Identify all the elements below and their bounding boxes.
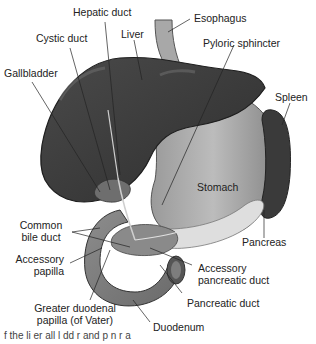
label-liver: Liver — [121, 28, 144, 40]
label-greater-duodenal-papilla-line1: Greater duodenal — [30, 302, 120, 314]
label-common-bile-duct-line1: Common — [18, 219, 64, 231]
label-greater-duodenal-papilla-line2: papilla (of Vater) — [30, 314, 120, 326]
label-accessory-papilla-line2: papilla — [12, 265, 64, 277]
label-accessory-pancreatic-duct-line1: Accessory — [198, 262, 269, 274]
label-hepatic-duct: Hepatic duct — [73, 6, 131, 18]
label-greater-duodenal-papilla: Greater duodenal papilla (of Vater) — [30, 302, 120, 326]
label-cystic-duct: Cystic duct — [36, 32, 87, 44]
pancreas-head-shape — [111, 225, 177, 256]
label-common-bile-duct: Common bile duct — [18, 219, 64, 243]
label-gallbladder: Gallbladder — [4, 67, 58, 79]
label-accessory-papilla: Accessory papilla — [12, 253, 64, 277]
label-accessory-pancreatic-duct-line2: pancreatic duct — [198, 274, 269, 286]
label-duodenum: Duodenum — [153, 321, 204, 333]
label-pyloric-sphincter: Pyloric sphincter — [203, 37, 280, 49]
label-common-bile-duct-line2: bile duct — [18, 231, 64, 243]
label-pancreatic-duct: Pancreatic duct — [187, 297, 259, 309]
label-accessory-pancreatic-duct: Accessory pancreatic duct — [198, 262, 269, 286]
caption-fragment: f the li er all l dd r and p n r a — [4, 330, 131, 341]
label-spleen: Spleen — [275, 91, 308, 103]
label-accessory-papilla-line1: Accessory — [12, 253, 64, 265]
label-pancreas: Pancreas — [242, 236, 286, 248]
label-stomach: Stomach — [197, 181, 238, 193]
label-esophagus: Esophagus — [194, 12, 247, 24]
